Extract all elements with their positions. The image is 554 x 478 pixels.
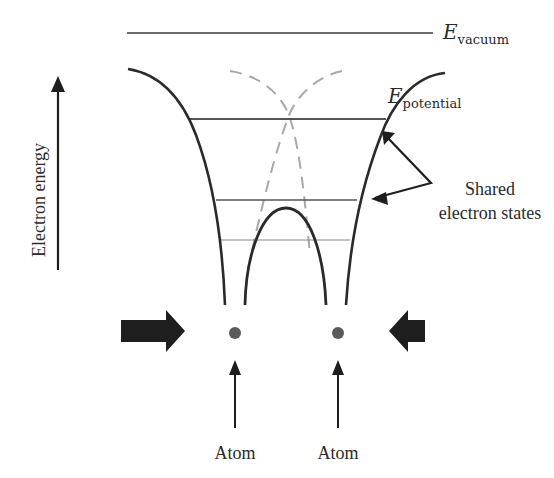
atom-pointer-arrows bbox=[229, 360, 344, 428]
electron-energy-axis bbox=[51, 76, 65, 270]
atom-right-label: Atom bbox=[317, 443, 358, 463]
potential-label: Epotential bbox=[387, 84, 461, 111]
shared-states-label-line2: electron states bbox=[439, 203, 541, 223]
right-compression-arrow-icon bbox=[389, 310, 425, 352]
atom-right-arrowhead-icon bbox=[332, 360, 344, 375]
shared-states-pointer bbox=[375, 136, 431, 198]
atom-left-label: Atom bbox=[214, 443, 255, 463]
shared-pointer-arrowhead-down-icon bbox=[371, 192, 388, 205]
left-potential-curve bbox=[128, 69, 225, 305]
central-barrier-curve bbox=[245, 208, 326, 305]
atom-right-dot bbox=[332, 327, 344, 339]
atom-left-dot bbox=[229, 327, 241, 339]
axis-label: Electron energy bbox=[29, 143, 49, 257]
left-compression-arrow-icon bbox=[121, 310, 185, 352]
vacuum-level-label: Evacuum bbox=[442, 20, 509, 47]
atom-left-arrowhead-icon bbox=[229, 360, 241, 375]
axis-arrowhead-icon bbox=[51, 76, 65, 92]
isolated-atom-dashed-curves bbox=[230, 71, 342, 260]
energy-diagram: Electron energy Evacuum Epotential Atom … bbox=[0, 0, 554, 478]
shared-states-label-line1: Shared bbox=[465, 179, 515, 199]
